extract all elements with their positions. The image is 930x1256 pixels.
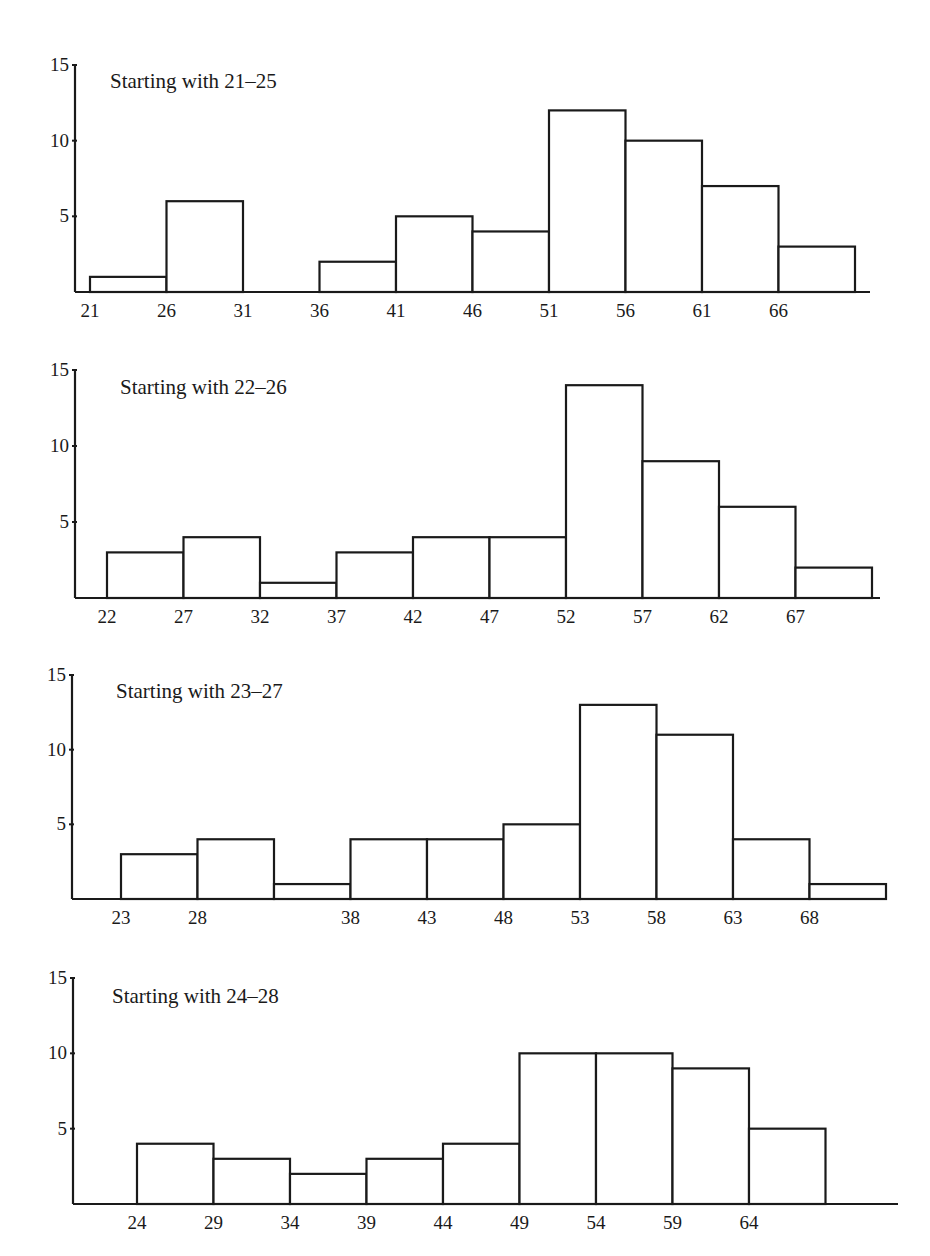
histogram-bar <box>490 537 567 598</box>
x-tick-label: 22 <box>98 606 117 627</box>
histogram-bar <box>596 1053 673 1204</box>
y-tick-label: 10 <box>50 130 69 151</box>
x-tick-label: 36 <box>310 300 329 321</box>
chart-title: Starting with 21–25 <box>110 69 277 93</box>
x-tick-label: 24 <box>128 1212 148 1233</box>
histogram-bar <box>733 839 810 899</box>
histogram-bar <box>121 854 198 899</box>
y-tick-label: 10 <box>48 1042 67 1063</box>
x-tick-label: 32 <box>251 606 270 627</box>
y-tick-label: 15 <box>47 664 66 685</box>
x-tick-label: 47 <box>480 606 499 627</box>
histogram-4: 51015Starting with 24–282429343944495459… <box>48 967 898 1233</box>
x-tick-label: 38 <box>341 907 360 928</box>
histogram-bar <box>107 552 184 598</box>
x-tick-label: 57 <box>633 606 652 627</box>
x-tick-label: 44 <box>434 1212 454 1233</box>
histogram-bar <box>719 507 796 598</box>
histogram-bar <box>427 839 504 899</box>
x-tick-label: 21 <box>81 300 100 321</box>
x-tick-label: 28 <box>188 907 207 928</box>
histogram-bar <box>198 839 275 899</box>
histogram-bar <box>90 277 167 292</box>
histogram-bar <box>673 1068 750 1204</box>
histogram-bar <box>184 537 261 598</box>
x-tick-label: 68 <box>800 907 819 928</box>
x-tick-label: 64 <box>740 1212 760 1233</box>
histogram-bar <box>520 1053 597 1204</box>
y-tick-label: 5 <box>58 1118 68 1139</box>
histogram-1: 51015Starting with 21–252126313641465156… <box>50 54 870 321</box>
histogram-bar <box>779 247 856 292</box>
x-tick-label: 62 <box>710 606 729 627</box>
x-tick-label: 59 <box>663 1212 682 1233</box>
x-tick-label: 43 <box>418 907 437 928</box>
x-tick-label: 58 <box>647 907 666 928</box>
x-tick-label: 26 <box>157 300 176 321</box>
histogram-bar <box>504 824 581 899</box>
histogram-2: 51015Starting with 22–262227323742475257… <box>50 359 880 627</box>
x-tick-label: 67 <box>786 606 805 627</box>
x-tick-label: 53 <box>571 907 590 928</box>
x-tick-label: 39 <box>357 1212 376 1233</box>
chart-title: Starting with 24–28 <box>112 984 279 1008</box>
histogram-bar <box>167 201 244 292</box>
charts-canvas: 51015Starting with 21–252126313641465156… <box>0 0 930 1256</box>
chart-title: Starting with 23–27 <box>116 679 283 703</box>
histogram-bar <box>580 705 657 899</box>
x-tick-label: 31 <box>234 300 253 321</box>
chart-title: Starting with 22–26 <box>120 375 287 399</box>
histogram-bar <box>260 583 337 598</box>
histogram-bar <box>643 461 720 598</box>
x-tick-label: 54 <box>587 1212 607 1233</box>
x-tick-label: 46 <box>463 300 482 321</box>
x-tick-label: 37 <box>327 606 346 627</box>
histogram-bar <box>626 141 703 292</box>
histogram-bar <box>443 1144 520 1204</box>
histogram-bar <box>810 884 887 899</box>
histogram-bar <box>337 552 414 598</box>
x-tick-label: 61 <box>693 300 712 321</box>
x-tick-label: 51 <box>540 300 559 321</box>
histogram-bar <box>549 110 626 292</box>
histogram-3: 51015Starting with 23–272328384348535863… <box>47 664 886 928</box>
y-tick-label: 15 <box>50 54 69 75</box>
x-tick-label: 29 <box>204 1212 223 1233</box>
x-tick-label: 49 <box>510 1212 529 1233</box>
x-tick-label: 41 <box>387 300 406 321</box>
x-tick-label: 42 <box>404 606 423 627</box>
histogram-bar <box>351 839 428 899</box>
x-tick-label: 63 <box>724 907 743 928</box>
y-tick-label: 15 <box>50 359 69 380</box>
histogram-bar <box>214 1159 291 1204</box>
x-tick-label: 66 <box>769 300 788 321</box>
histogram-bar <box>396 216 473 292</box>
histogram-bar <box>137 1144 214 1204</box>
x-tick-label: 48 <box>494 907 513 928</box>
histogram-bar <box>320 262 397 292</box>
x-tick-label: 23 <box>112 907 131 928</box>
histogram-bar <box>749 1129 826 1204</box>
x-tick-label: 34 <box>281 1212 301 1233</box>
y-tick-label: 5 <box>60 205 70 226</box>
histogram-bar <box>290 1174 367 1204</box>
y-tick-label: 10 <box>50 435 69 456</box>
y-tick-label: 5 <box>60 511 70 532</box>
histogram-bar <box>796 568 873 598</box>
histogram-stack: 51015Starting with 21–252126313641465156… <box>0 0 930 1256</box>
x-tick-label: 52 <box>557 606 576 627</box>
histogram-bar <box>274 884 351 899</box>
histogram-bar <box>473 231 550 292</box>
y-tick-label: 5 <box>57 813 67 834</box>
y-tick-label: 10 <box>47 739 66 760</box>
histogram-bar <box>367 1159 444 1204</box>
histogram-bar <box>702 186 779 292</box>
histogram-bar <box>413 537 490 598</box>
histogram-bar <box>657 735 734 899</box>
x-tick-label: 27 <box>174 606 193 627</box>
x-tick-label: 56 <box>616 300 635 321</box>
y-tick-label: 15 <box>48 967 67 988</box>
histogram-bar <box>566 385 643 598</box>
